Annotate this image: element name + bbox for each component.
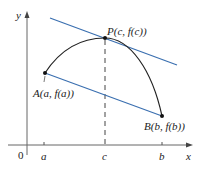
y-axis [25,11,30,155]
y-axis-label: y [15,9,21,21]
mvt-diagram: y x 0 a c b A(a, f(a)) P(c, f(c)) B(b, f… [0,0,203,170]
origin-label: 0 [18,149,24,161]
function-curve [45,38,162,116]
tick-label-c: c [102,150,107,162]
x-axis-label: x [185,150,191,162]
point-a [43,71,47,75]
point-a-leader [44,76,45,82]
tick-label-b: b [159,150,165,162]
point-b-label: B(b, f(b)) [144,120,185,133]
tick-label-a: a [41,150,47,162]
x-axis [8,143,193,148]
point-a-label: A(a, f(a)) [32,87,74,100]
point-p-label: P(c, f(c)) [106,25,147,38]
point-b [160,114,164,118]
